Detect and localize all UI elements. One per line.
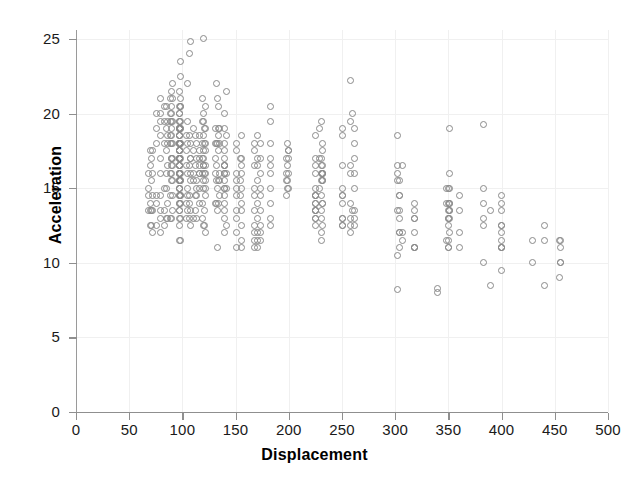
- data-point: [498, 237, 505, 244]
- data-point: [177, 170, 184, 177]
- data-point: [176, 177, 183, 184]
- data-point: [221, 215, 228, 222]
- data-point: [285, 147, 292, 154]
- plot-area: [76, 30, 608, 412]
- y-axis-line: [76, 30, 77, 412]
- data-point: [257, 192, 264, 199]
- data-point: [254, 177, 261, 184]
- data-point: [177, 95, 184, 102]
- data-point: [176, 125, 183, 132]
- data-point: [221, 155, 228, 162]
- data-point: [190, 177, 197, 184]
- x-tick-mark: [236, 413, 237, 420]
- x-tick-mark: [555, 413, 556, 420]
- data-point: [187, 38, 194, 45]
- data-point: [487, 207, 494, 214]
- data-point: [233, 140, 240, 147]
- data-point: [145, 185, 152, 192]
- data-point: [157, 118, 164, 125]
- data-point: [176, 200, 183, 207]
- data-point: [213, 140, 220, 147]
- data-point: [212, 125, 219, 132]
- data-point: [233, 147, 240, 154]
- data-point: [153, 200, 160, 207]
- data-point: [238, 155, 245, 162]
- data-point: [443, 237, 450, 244]
- data-point: [498, 229, 505, 236]
- data-point: [169, 207, 176, 214]
- data-point: [176, 155, 183, 162]
- x-tick-label: 250: [312, 421, 372, 438]
- data-point: [394, 286, 401, 293]
- data-point: [176, 207, 183, 214]
- data-point: [200, 35, 207, 42]
- data-point: [339, 200, 346, 207]
- x-tick-mark: [608, 413, 609, 420]
- data-point: [498, 207, 505, 214]
- data-point: [480, 185, 487, 192]
- data-point: [223, 88, 230, 95]
- data-point: [202, 229, 209, 236]
- data-point: [221, 229, 228, 236]
- data-point: [498, 200, 505, 207]
- x-tick-label: 150: [206, 421, 266, 438]
- data-point: [556, 274, 563, 281]
- data-point: [318, 215, 325, 222]
- data-point: [529, 237, 536, 244]
- data-point: [201, 207, 208, 214]
- data-point: [221, 147, 228, 154]
- data-point: [394, 252, 401, 259]
- data-point: [498, 244, 505, 251]
- data-point: [541, 222, 548, 229]
- data-point: [157, 155, 164, 162]
- data-point: [157, 229, 164, 236]
- data-point: [163, 125, 170, 132]
- data-point: [176, 110, 183, 117]
- data-point: [316, 125, 323, 132]
- data-point: [529, 259, 536, 266]
- data-point: [284, 162, 291, 169]
- data-point: [192, 192, 199, 199]
- data-point: [147, 200, 154, 207]
- gridline-vertical: [608, 30, 609, 412]
- data-point: [177, 103, 184, 110]
- data-point: [257, 155, 264, 162]
- data-point: [347, 200, 354, 207]
- data-point: [312, 132, 319, 139]
- data-point: [446, 125, 453, 132]
- data-point: [396, 207, 403, 214]
- data-point: [446, 229, 453, 236]
- data-point: [161, 222, 168, 229]
- data-point: [149, 229, 156, 236]
- data-point: [169, 80, 176, 87]
- y-tick-mark: [69, 114, 77, 115]
- data-point: [480, 200, 487, 207]
- data-point: [157, 170, 164, 177]
- data-point: [541, 282, 548, 289]
- data-point: [267, 170, 274, 177]
- data-point: [161, 140, 168, 147]
- data-point: [153, 222, 160, 229]
- data-point: [148, 177, 155, 184]
- data-point: [176, 222, 183, 229]
- data-point: [318, 207, 325, 214]
- data-point: [411, 200, 418, 207]
- data-point: [283, 155, 290, 162]
- x-tick-label: 350: [418, 421, 478, 438]
- data-point: [202, 192, 209, 199]
- data-point: [480, 121, 487, 128]
- data-point: [254, 244, 261, 251]
- data-point: [214, 95, 221, 102]
- data-point: [254, 215, 261, 222]
- data-point: [157, 132, 164, 139]
- data-point: [153, 140, 160, 147]
- data-point: [238, 200, 245, 207]
- data-point: [347, 77, 354, 84]
- y-tick-mark: [69, 39, 77, 40]
- data-point: [196, 200, 203, 207]
- data-point: [411, 207, 418, 214]
- data-point: [163, 147, 170, 154]
- data-point: [434, 285, 441, 292]
- x-tick-mark: [182, 413, 183, 420]
- data-point: [541, 237, 548, 244]
